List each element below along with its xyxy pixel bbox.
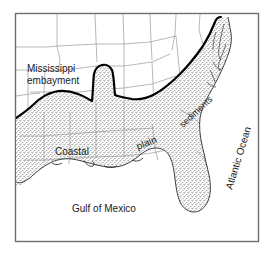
label-coastal: Coastal bbox=[55, 146, 89, 157]
label-gulf-of-mexico: Gulf of Mexico bbox=[72, 203, 136, 214]
map-figure: Mississippi embayment Coastal plain sedi… bbox=[0, 0, 273, 255]
label-mississippi-embayment-line1: Mississippi bbox=[27, 63, 75, 74]
label-mississippi-embayment-line2: embayment bbox=[27, 75, 79, 86]
map-canvas: Mississippi embayment Coastal plain sedi… bbox=[0, 0, 273, 255]
